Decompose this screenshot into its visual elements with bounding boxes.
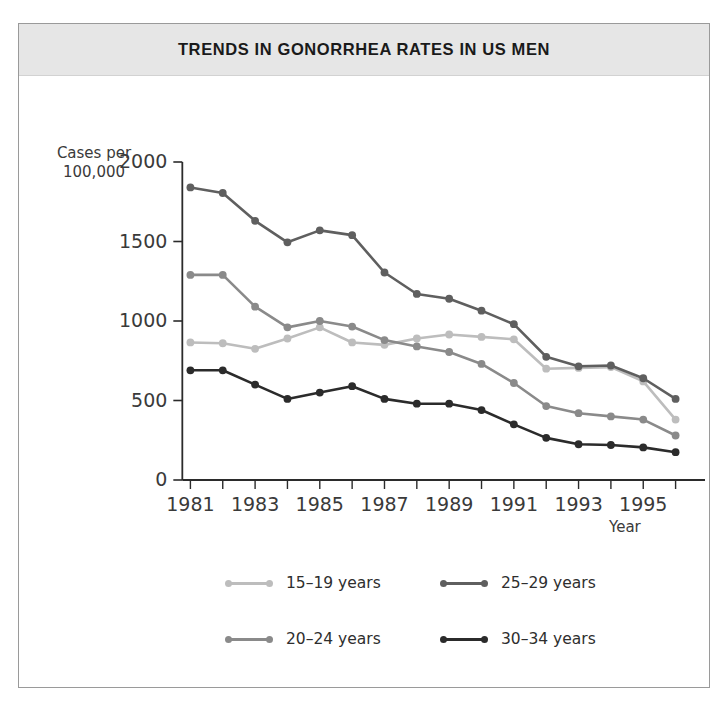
chart-title-band: TRENDS IN GONORRHEA RATES IN US MEN: [19, 24, 709, 76]
data-point-marker: [575, 409, 583, 417]
x-tick-label: 1993: [554, 493, 602, 515]
data-point-marker: [413, 290, 421, 298]
axes: [182, 162, 705, 480]
data-point-marker: [284, 335, 292, 343]
data-point-marker: [478, 406, 486, 414]
data-point-marker: [445, 400, 453, 408]
data-point-marker: [348, 339, 356, 347]
x-axis-ticks: 19811983198519871989199119931995: [166, 480, 675, 515]
data-point-marker: [413, 343, 421, 351]
data-point-marker: [445, 295, 453, 303]
y-tick-label: 2000: [119, 150, 167, 172]
x-tick-label: 1987: [360, 493, 408, 515]
data-point-marker: [187, 271, 195, 279]
chart-legend: 15–19 years 25–29 years 20–24 years: [224, 572, 654, 650]
legend-item-15-19[interactable]: 15–19 years: [224, 572, 439, 594]
x-tick-label: 1985: [296, 493, 344, 515]
legend-label: 15–19 years: [286, 574, 381, 592]
data-point-marker: [284, 238, 292, 246]
legend-swatch-icon: [439, 633, 489, 645]
data-point-marker: [219, 271, 227, 279]
series-line: [190, 275, 675, 436]
data-point-marker: [510, 420, 518, 428]
legend-item-20-24[interactable]: 20–24 years: [224, 628, 439, 650]
data-point-marker: [381, 269, 389, 277]
data-point-marker: [219, 339, 227, 347]
data-point-marker: [478, 333, 486, 341]
y-tick-label: 1500: [119, 230, 167, 252]
line-chart: 0500100015002000 19811983198519871989199…: [19, 76, 709, 546]
legend-swatch-icon: [439, 577, 489, 589]
data-point-marker: [478, 307, 486, 315]
y-axis-ticks: 0500100015002000: [119, 150, 182, 490]
data-series: [187, 323, 680, 423]
data-point-marker: [445, 348, 453, 356]
legend-label: 30–34 years: [501, 630, 596, 648]
y-tick-label: 0: [155, 468, 167, 490]
data-point-marker: [251, 381, 259, 389]
x-tick-label: 1995: [619, 493, 667, 515]
data-point-marker: [413, 335, 421, 343]
data-point-marker: [510, 335, 518, 343]
data-point-marker: [316, 317, 324, 325]
data-point-marker: [413, 400, 421, 408]
data-point-marker: [284, 323, 292, 331]
legend-item-25-29[interactable]: 25–29 years: [439, 572, 654, 594]
data-point-marker: [316, 389, 324, 397]
legend-label: 25–29 years: [501, 574, 596, 592]
data-point-marker: [542, 402, 550, 410]
x-tick-label: 1981: [166, 493, 214, 515]
data-point-marker: [639, 374, 647, 382]
data-point-marker: [639, 416, 647, 424]
data-point-marker: [219, 189, 227, 197]
data-point-marker: [187, 339, 195, 347]
series-line: [190, 370, 675, 452]
data-point-marker: [187, 184, 195, 192]
data-point-marker: [542, 353, 550, 361]
legend-grid: 15–19 years 25–29 years 20–24 years: [224, 572, 654, 650]
data-point-marker: [510, 379, 518, 387]
data-point-marker: [672, 432, 680, 440]
data-point-marker: [607, 362, 615, 370]
data-series: [187, 366, 680, 456]
x-tick-label: 1983: [231, 493, 279, 515]
x-tick-label: 1991: [490, 493, 538, 515]
data-point-marker: [348, 382, 356, 390]
data-point-marker: [445, 331, 453, 339]
data-point-marker: [284, 395, 292, 403]
plot-area: Cases per 100,000 Year 0500100015002000 …: [19, 76, 709, 687]
figure-frame: TRENDS IN GONORRHEA RATES IN US MEN Case…: [18, 23, 710, 688]
data-point-marker: [672, 448, 680, 456]
data-point-marker: [219, 366, 227, 374]
series-line: [190, 327, 675, 419]
data-point-marker: [251, 303, 259, 311]
data-point-marker: [542, 434, 550, 442]
data-point-marker: [478, 360, 486, 368]
legend-item-30-34[interactable]: 30–34 years: [439, 628, 654, 650]
data-point-marker: [575, 440, 583, 448]
data-point-marker: [510, 320, 518, 328]
legend-swatch-icon: [224, 633, 274, 645]
data-point-marker: [607, 441, 615, 449]
data-point-marker: [639, 444, 647, 452]
data-point-marker: [187, 366, 195, 374]
data-point-marker: [251, 345, 259, 353]
data-point-marker: [251, 217, 259, 225]
data-point-marker: [381, 336, 389, 344]
data-point-marker: [348, 231, 356, 239]
data-point-marker: [542, 365, 550, 373]
data-point-marker: [575, 362, 583, 370]
legend-swatch-icon: [224, 577, 274, 589]
data-series: [187, 184, 680, 403]
y-tick-label: 500: [131, 389, 167, 411]
y-tick-label: 1000: [119, 309, 167, 331]
x-tick-label: 1989: [425, 493, 473, 515]
data-point-marker: [672, 395, 680, 403]
data-point-marker: [607, 413, 615, 421]
data-point-marker: [316, 226, 324, 234]
data-point-marker: [348, 323, 356, 331]
data-series-group: [187, 184, 680, 457]
data-point-marker: [672, 416, 680, 424]
page-title: TRENDS IN GONORRHEA RATES IN US MEN: [178, 40, 550, 59]
data-point-marker: [381, 395, 389, 403]
